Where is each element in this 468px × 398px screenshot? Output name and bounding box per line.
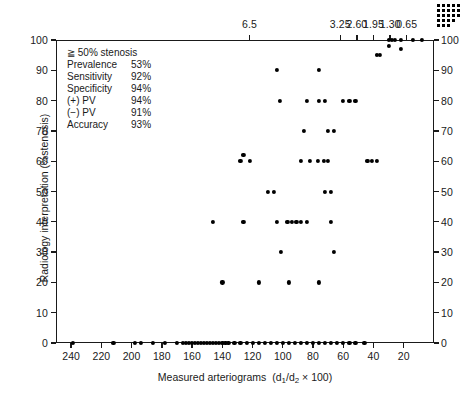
data-point xyxy=(317,99,321,103)
y-tick-right xyxy=(434,100,439,101)
data-point xyxy=(332,250,336,254)
data-point xyxy=(71,341,75,345)
data-point xyxy=(305,341,309,345)
data-point xyxy=(323,189,327,193)
corner-mark-cell xyxy=(447,14,450,17)
data-point xyxy=(411,38,415,42)
corner-mark-cell xyxy=(442,4,445,7)
y-tick-right xyxy=(434,39,439,40)
data-point xyxy=(257,341,261,345)
x-axis-title-formula: (d1/d2 × 100) xyxy=(269,371,332,383)
corner-mark-cell xyxy=(452,24,455,27)
data-point xyxy=(311,341,315,345)
x-tick-label-bottom: 120 xyxy=(236,350,270,362)
data-point xyxy=(238,341,242,345)
data-point xyxy=(220,280,224,284)
data-point xyxy=(323,99,327,103)
data-point xyxy=(347,99,351,103)
x-tick-label-bottom: 140 xyxy=(205,350,239,362)
data-point xyxy=(302,129,306,133)
corner-mark-cell xyxy=(442,19,445,22)
y-tick-label-left: 0 xyxy=(22,337,48,349)
stats-row-label: Prevalence xyxy=(67,59,131,71)
stats-row: Accuracy93% xyxy=(67,119,151,131)
data-point xyxy=(281,341,285,345)
corner-mark-cell xyxy=(457,9,460,12)
stats-row: Prevalence53% xyxy=(67,59,151,71)
data-point xyxy=(329,220,333,224)
data-point xyxy=(315,159,319,163)
stats-table: Prevalence53%Sensitivity92%Specificity94… xyxy=(67,59,151,130)
corner-mark-cell xyxy=(442,9,445,12)
data-point xyxy=(362,341,366,345)
data-point xyxy=(374,159,378,163)
corner-mark-cell xyxy=(442,14,445,17)
data-point xyxy=(275,220,279,224)
data-point xyxy=(377,53,381,57)
y-tick-right xyxy=(434,342,439,343)
x-tick-label-bottom: 220 xyxy=(84,350,118,362)
x-axis-title: Measured arteriograms (d1/d2 × 100) xyxy=(56,371,434,385)
data-point xyxy=(353,99,357,103)
y-tick-label-right: 70 xyxy=(441,125,468,137)
corner-mark-cell xyxy=(447,19,450,22)
x-tick-label-top: 0.65 xyxy=(390,18,424,30)
y-tick-label-right: 80 xyxy=(441,95,468,107)
corner-mark-cell xyxy=(437,14,440,17)
stats-row-label: Accuracy xyxy=(67,119,131,131)
y-tick-label-right: 100 xyxy=(441,34,468,46)
y-tick-label-right: 0 xyxy=(441,337,468,349)
corner-mark-cell xyxy=(457,14,460,17)
data-point xyxy=(175,341,179,345)
stats-row: Specificity94% xyxy=(67,83,151,95)
data-point xyxy=(299,341,303,345)
y-tick-label-right: 10 xyxy=(441,307,468,319)
y-tick-label-right: 40 xyxy=(441,216,468,228)
data-point xyxy=(226,341,230,345)
x-tick-label-bottom: 60 xyxy=(326,350,360,362)
y-tick-right xyxy=(434,161,439,162)
x-tick-label-bottom: 100 xyxy=(266,350,300,362)
y-tick-label-right: 60 xyxy=(441,155,468,167)
data-point xyxy=(341,341,345,345)
corner-mark-cell xyxy=(452,19,455,22)
data-point xyxy=(163,341,167,345)
stats-row: (−) PV91% xyxy=(67,107,151,119)
data-point xyxy=(232,341,236,345)
corner-dot-grid-mark xyxy=(436,3,461,28)
scatter-plot-figure: 0102030405060708090100010203040506070809… xyxy=(0,0,468,398)
corner-mark-cell xyxy=(437,19,440,22)
x-tick-label-top: 6.5 xyxy=(233,18,267,30)
data-point xyxy=(332,129,336,133)
data-point xyxy=(326,129,330,133)
y-tick-label-left: 100 xyxy=(22,34,48,46)
stats-row-value: 94% xyxy=(131,95,151,107)
x-tick-label-bottom: 40 xyxy=(357,350,391,362)
corner-mark-cell xyxy=(437,9,440,12)
y-tick-right xyxy=(434,282,439,283)
y-tick-right xyxy=(434,130,439,131)
data-point xyxy=(341,99,345,103)
x-tick-label-bottom: 240 xyxy=(54,350,88,362)
y-tick-right xyxy=(434,312,439,313)
data-point xyxy=(266,189,270,193)
data-point xyxy=(290,220,294,224)
data-point xyxy=(399,38,403,42)
corner-mark-cell xyxy=(447,9,450,12)
data-point xyxy=(347,341,351,345)
data-point xyxy=(111,341,115,345)
x-tick-label-bottom: 200 xyxy=(115,350,149,362)
y-tick-right xyxy=(434,251,439,252)
data-point xyxy=(269,341,273,345)
y-tick-label-right: 50 xyxy=(441,186,468,198)
x-axis-title-main: Measured arteriograms xyxy=(158,371,267,383)
stats-row-value: 92% xyxy=(131,71,151,83)
x-tick-label-bottom: 180 xyxy=(145,350,179,362)
data-point xyxy=(151,341,155,345)
x-tick-bottom xyxy=(373,343,374,348)
corner-mark-cell xyxy=(447,24,450,27)
stats-row-label: Specificity xyxy=(67,83,131,95)
x-tick-bottom xyxy=(403,343,404,348)
data-point xyxy=(250,341,254,345)
data-point xyxy=(335,341,339,345)
